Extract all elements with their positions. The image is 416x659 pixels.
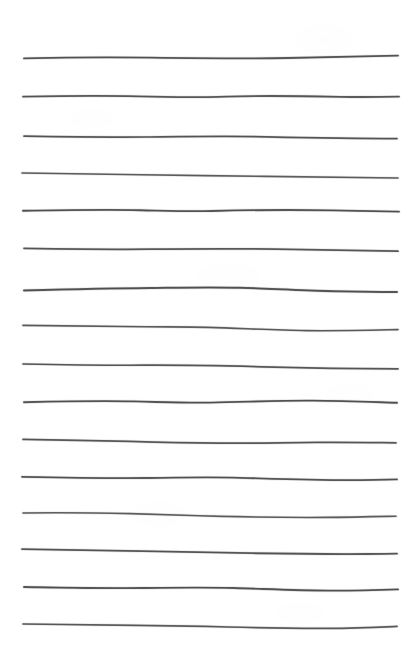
ruled-lines-layer [0,0,416,659]
rule-line-core [22,173,398,178]
scanned-page [0,0,416,659]
ruled-lines-group [22,56,399,629]
